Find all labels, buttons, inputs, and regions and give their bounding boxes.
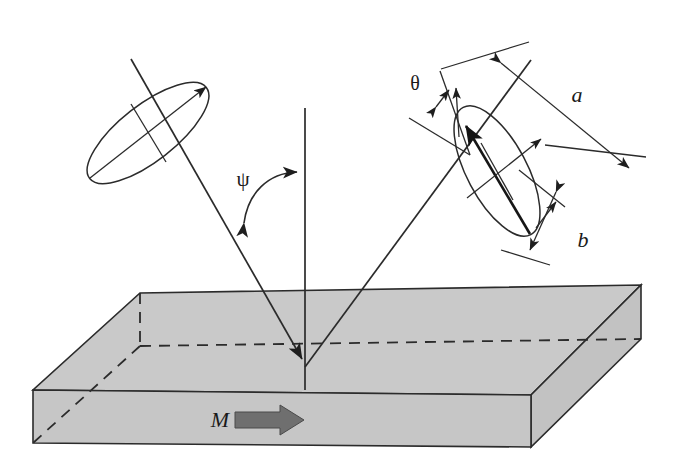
- reflected-ellipse-construction-axis: [481, 143, 513, 200]
- diagram-canvas: ψ: [0, 0, 684, 471]
- minor-axis-label: b: [578, 227, 589, 252]
- theta-label: θ: [410, 72, 420, 94]
- dimension-a-extension-end: [545, 145, 646, 157]
- major-axis-label: a: [572, 82, 583, 107]
- minor-axis-dimension-group: b: [501, 170, 589, 265]
- reflected-major-axis-vector: [466, 126, 530, 234]
- dimension-b-extension-start: [519, 170, 565, 207]
- dimension-a-extension-start: [441, 42, 529, 69]
- major-axis-dimension-group: a: [441, 42, 646, 168]
- theta-angle-group: θ: [409, 71, 470, 155]
- reflected-polarization-ellipse-group: [437, 93, 558, 248]
- dimension-b-arrow: [530, 192, 556, 250]
- psi-angle-group: ψ: [236, 167, 297, 223]
- magnetization-label: M: [210, 407, 231, 432]
- psi-angle-arc: [244, 172, 297, 223]
- sample-slab: [33, 285, 641, 447]
- theta-reference-line: [409, 118, 470, 155]
- theta-angle-arrow: [436, 90, 449, 107]
- moke-diagram-figure: ψ: [0, 0, 684, 471]
- dimension-b-extension-end: [501, 250, 550, 265]
- psi-label: ψ: [236, 167, 249, 191]
